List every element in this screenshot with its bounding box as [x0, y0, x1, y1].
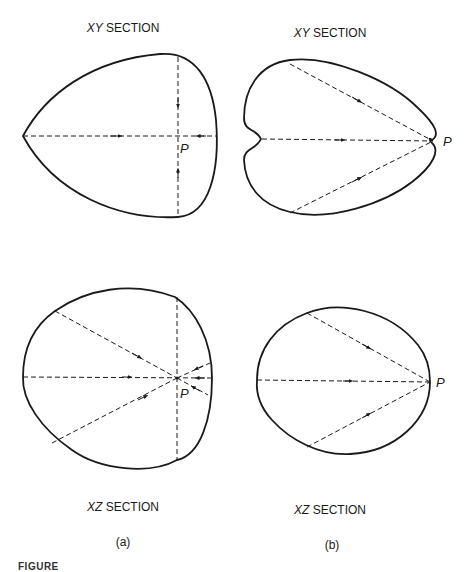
- panel-b-xy-title: XY SECTION: [294, 26, 367, 40]
- panel-a-sublabel: (a): [116, 535, 131, 549]
- panel-a-xy-shape: [23, 54, 217, 217]
- axis-label: XY: [87, 21, 103, 35]
- section-label: SECTION: [313, 503, 366, 517]
- axis-label: XZ: [87, 500, 102, 514]
- section-label: SECTION: [313, 26, 366, 40]
- panel-a-xz-shape: [23, 288, 212, 468]
- axis-label: XY: [294, 26, 310, 40]
- panel-b-xy-point-label: P: [443, 134, 452, 149]
- panel-a-xy-title: XY SECTION: [87, 21, 160, 35]
- panel-a-xz-title: XZ SECTION: [87, 500, 159, 514]
- panel-a-xy-point-label: P: [180, 141, 189, 156]
- panel-b-sublabel: (b): [325, 538, 340, 552]
- panel-b-xz-shape: [257, 308, 430, 455]
- panel-b-xz-point-label: P: [436, 375, 445, 390]
- section-label: SECTION: [106, 500, 159, 514]
- panel-b-xz-title: XZ SECTION: [294, 503, 366, 517]
- panel-a-xz-point-label: P: [180, 386, 189, 401]
- figure-caption: FIGURE: [18, 561, 59, 572]
- axis-label: XZ: [294, 503, 309, 517]
- panel-b-xy-shape: [244, 59, 436, 214]
- section-label: SECTION: [106, 21, 159, 35]
